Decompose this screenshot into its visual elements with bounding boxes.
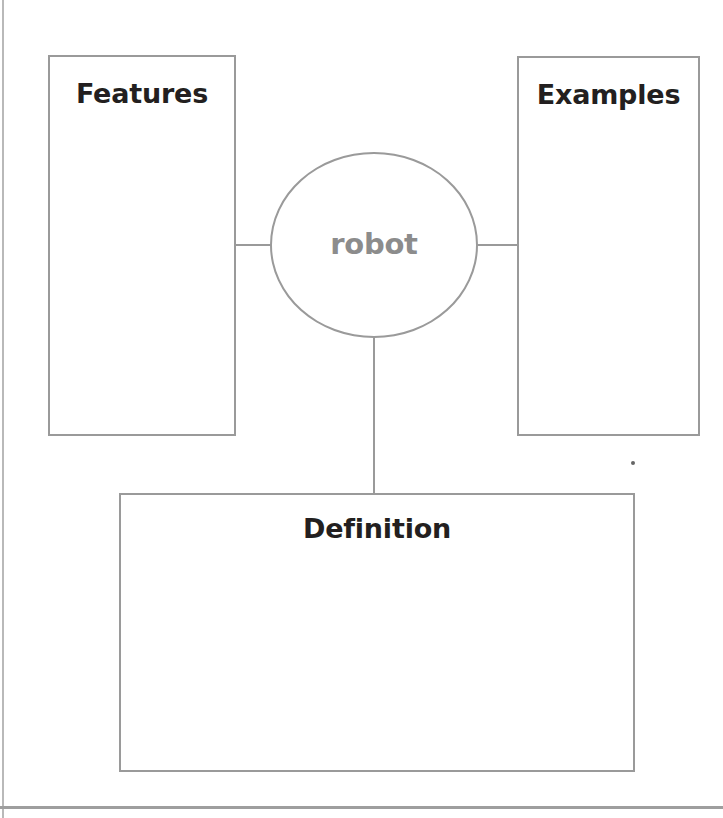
features-box-title: Features (50, 78, 234, 109)
connector-center-to-definition (373, 336, 375, 494)
examples-box-title: Examples (519, 79, 698, 110)
page-edge-left (2, 0, 4, 818)
connector-features-to-center (235, 244, 272, 246)
connector-center-to-examples (477, 244, 518, 246)
center-concept-label: robot (330, 227, 417, 261)
center-concept-ellipse[interactable]: robot (270, 152, 478, 338)
definition-box-title: Definition (121, 513, 633, 544)
worksheet-canvas: Features Examples Definition robot (0, 0, 723, 818)
scan-speck (631, 461, 635, 465)
examples-box[interactable]: Examples (517, 56, 700, 436)
features-box[interactable]: Features (48, 55, 236, 436)
page-edge-bottom (0, 806, 723, 809)
definition-box[interactable]: Definition (119, 493, 635, 772)
